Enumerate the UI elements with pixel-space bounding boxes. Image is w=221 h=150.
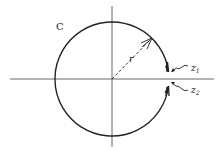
z2-pointer [172, 83, 188, 91]
z1-subscript: 1 [196, 67, 200, 74]
upper-arrowhead [166, 62, 169, 72]
z2-label: z2 [190, 85, 200, 96]
radius-label: r [129, 54, 134, 64]
z1-label: z1 [190, 63, 200, 74]
contour-diagram: C r z1 z2 [0, 0, 221, 150]
contour-label: C [56, 21, 64, 32]
radius-arrowhead [141, 38, 152, 49]
z2-subscript: 2 [195, 89, 200, 96]
